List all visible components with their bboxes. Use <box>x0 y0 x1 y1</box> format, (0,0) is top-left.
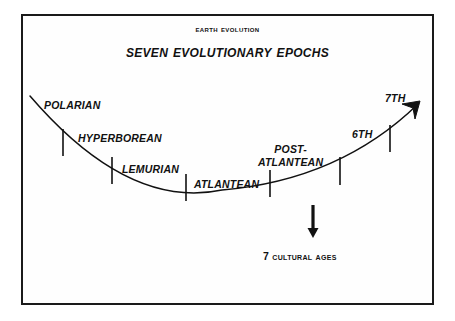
cultural-ages-count: 7 <box>263 250 272 262</box>
epoch-label-polarian: POLARIAN <box>44 99 100 111</box>
cultural-ages-caption: 7 Cultural Ages <box>263 250 337 262</box>
epoch-label-post-atlantean: POST-ATLANTEAN <box>258 143 323 169</box>
cultural-ages-label: Cultural Ages <box>272 250 336 262</box>
epoch-label-atlantean: ATLANTEAN <box>194 178 259 190</box>
diagram-page: Earth Evolution Seven Evolutionary Epoch… <box>0 0 455 321</box>
epoch-label-seventh: 7TH <box>385 92 405 104</box>
cultural-ages-arrow-head <box>308 228 319 238</box>
epoch-label-lemurian: LEMURIAN <box>122 163 179 175</box>
diagram-canvas <box>0 0 455 321</box>
cultural-ages-arrow <box>308 205 319 238</box>
epoch-label-sixth: 6TH <box>352 128 372 140</box>
epoch-label-post-atlantean-line1: POST- <box>258 143 323 156</box>
epoch-label-post-atlantean-line2: ATLANTEAN <box>258 156 323 169</box>
epoch-label-hyperborean: HYPERBOREAN <box>78 132 162 144</box>
